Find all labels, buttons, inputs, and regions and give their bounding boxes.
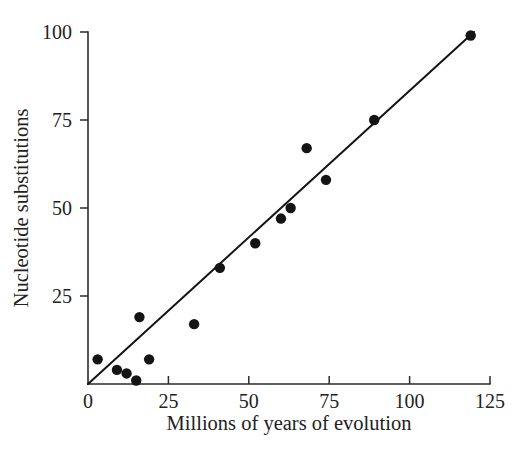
data-point	[369, 115, 379, 125]
chart-canvas: 255075100 0255075100125 Millions of year…	[0, 0, 532, 451]
x-axis-title: Millions of years of evolution	[167, 412, 412, 435]
x-axis-tick-labels: 0255075100125	[83, 390, 505, 412]
data-point	[92, 354, 102, 364]
y-axis-tick-labels: 255075100	[42, 21, 72, 307]
data-point	[112, 365, 122, 375]
y-tick-label-25: 25	[52, 285, 72, 307]
y-tick-label-100: 100	[42, 21, 72, 43]
data-point	[276, 213, 286, 223]
x-axis-ticks	[168, 376, 490, 384]
x-tick-label-100: 100	[395, 390, 425, 412]
y-axis-title: Nucleotide substitutions	[10, 109, 32, 308]
data-point	[250, 238, 260, 248]
data-point	[285, 203, 295, 213]
data-point	[215, 263, 225, 273]
y-tick-label-75: 75	[52, 109, 72, 131]
data-point	[466, 30, 476, 40]
scatter-chart-figure: 255075100 0255075100125 Millions of year…	[0, 0, 532, 451]
data-point	[189, 319, 199, 329]
x-tick-label-0: 0	[83, 390, 93, 412]
x-tick-label-25: 25	[158, 390, 178, 412]
data-point	[301, 143, 311, 153]
regression-trendline	[88, 32, 474, 384]
x-tick-label-75: 75	[319, 390, 339, 412]
trendline-segment	[88, 32, 474, 384]
data-point	[121, 368, 131, 378]
y-axis-ticks	[80, 32, 88, 296]
data-point	[131, 375, 141, 385]
x-tick-label-50: 50	[239, 390, 259, 412]
data-point	[321, 175, 331, 185]
data-point	[144, 354, 154, 364]
data-point	[134, 312, 144, 322]
x-tick-label-125: 125	[475, 390, 505, 412]
y-tick-label-50: 50	[52, 197, 72, 219]
